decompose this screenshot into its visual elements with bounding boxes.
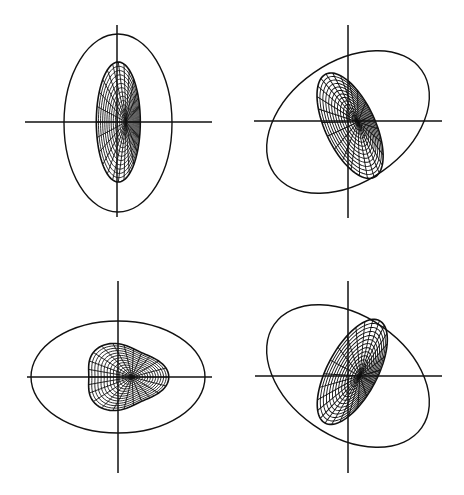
outer-ellipse: [64, 34, 172, 212]
inner-mesh: [89, 343, 169, 410]
panel-top-right: [240, 21, 456, 223]
diagram-canvas: [0, 0, 464, 495]
inner-mesh: [303, 309, 402, 435]
panel-bottom-right: [240, 275, 456, 477]
inner-mesh: [303, 63, 396, 187]
inner-mesh: [96, 62, 140, 182]
panel-top-left: [25, 25, 212, 217]
panel-bottom-left: [27, 281, 212, 473]
